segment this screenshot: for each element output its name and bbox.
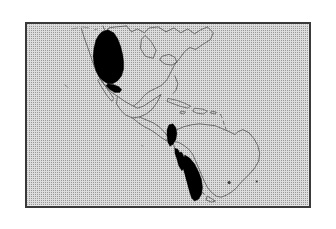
- range-northern-andes: [167, 124, 177, 147]
- figure-container: Americas coastline outline Western North…: [0, 0, 336, 229]
- alaska-coastline: [71, 27, 98, 30]
- mexico-coastline: [117, 94, 161, 117]
- tierra-del-fuego: [206, 196, 215, 202]
- lesser-antilles: [220, 114, 226, 130]
- great-lakes-outline: [160, 54, 177, 65]
- galapagos-mark: [141, 145, 143, 146]
- north-america-east-coastline: [133, 27, 213, 106]
- florida-peninsula: [173, 76, 178, 94]
- hudson-bay-coastline: [140, 36, 156, 59]
- canada-coastline: [103, 26, 208, 34]
- pacific-islet-mark: [64, 85, 68, 88]
- map-frame: [25, 22, 311, 208]
- americas-map: [27, 24, 309, 206]
- south-atlantic-islet-dot: [256, 181, 258, 183]
- puerto-rico-island: [210, 111, 216, 114]
- falkland-island-dot: [228, 181, 231, 184]
- range-northwest-mexico-tail: [106, 84, 122, 93]
- shaded-range-group: [93, 30, 202, 201]
- cuba-island: [167, 98, 191, 108]
- jamaica-island: [180, 111, 186, 114]
- range-western-north-america: [93, 30, 124, 84]
- hispaniola-island: [193, 108, 208, 114]
